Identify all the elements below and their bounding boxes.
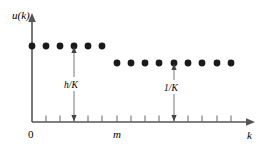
h-over-k-arrowhead-down xyxy=(71,115,76,122)
datapoint xyxy=(99,43,106,50)
figure-container: h/K 1/K u(k) k 0 m xyxy=(0,0,267,147)
datapoint xyxy=(185,60,192,67)
one-over-k-label: 1/K xyxy=(164,83,178,93)
annotation-h-over-k: h/K xyxy=(61,47,87,122)
y-axis-label: u(k) xyxy=(12,9,30,22)
datapoint xyxy=(228,60,235,67)
one-over-k-arrowhead-down xyxy=(171,115,176,122)
x-axis-label: k xyxy=(247,129,253,141)
series-high-datapoints xyxy=(29,43,106,50)
datapoint xyxy=(29,43,36,50)
datapoint xyxy=(199,60,206,67)
annotation-one-over-k: 1/K xyxy=(161,64,187,122)
x-tick-label-origin: 0 xyxy=(28,128,34,140)
step-plot-chart: h/K 1/K u(k) k 0 m xyxy=(0,0,267,147)
x-tick-label-m: m xyxy=(113,128,121,140)
h-over-k-label: h/K xyxy=(64,80,78,90)
datapoint xyxy=(128,60,135,67)
datapoint xyxy=(114,60,121,67)
axes-group xyxy=(28,13,255,126)
datapoint xyxy=(142,60,149,67)
datapoint xyxy=(85,43,92,50)
datapoint xyxy=(57,43,64,50)
datapoint xyxy=(214,60,221,67)
datapoint xyxy=(43,43,50,50)
x-axis-arrowhead xyxy=(246,118,255,126)
datapoint xyxy=(156,60,163,67)
